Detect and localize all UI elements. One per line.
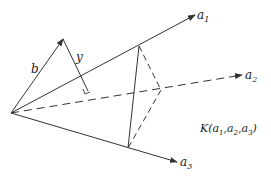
label-a1: a1: [197, 8, 209, 24]
cone-diagram: a1 a2 a3 b y K(a1,a2,a3): [0, 0, 271, 183]
vector-b-line: [11, 39, 63, 113]
label-a3: a3: [180, 155, 192, 171]
label-y: y: [75, 50, 83, 64]
triangle-edge-solid: [128, 46, 139, 148]
right-angle-marker: [83, 89, 90, 94]
label-a2: a2: [245, 68, 257, 84]
cone-label: K(a1,a2,a3): [199, 122, 257, 137]
vector-a3-line: [11, 113, 177, 162]
label-b: b: [31, 62, 39, 76]
triangle-edge-dashed-1: [139, 46, 161, 90]
